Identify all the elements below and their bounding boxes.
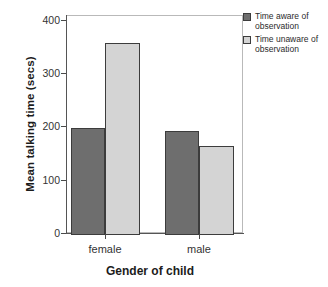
x-category-label-male: male [159, 243, 239, 255]
legend-item-aware: Time aware of observation [243, 11, 328, 31]
y-tick-label-100: 100 [26, 175, 60, 186]
y-tick-label-400: 400 [26, 15, 60, 26]
legend-item-unaware: Time unaware of observation [243, 34, 328, 54]
x-tick-mark-female [105, 234, 106, 239]
bar-male-unaware [199, 146, 234, 235]
chart-legend: Time aware of observation Time unaware o… [243, 11, 328, 57]
legend-label-aware: Time aware of observation [255, 11, 328, 31]
x-axis-title: Gender of child [0, 264, 300, 278]
bar-female-aware [71, 128, 105, 235]
x-tick-mark-male [199, 234, 200, 239]
light-swatch-icon [243, 36, 251, 44]
bar-female-unaware [105, 43, 140, 235]
bar-chart-figure: Mean talking time (secs) 400 300 200 100… [0, 0, 328, 287]
y-axis-line [66, 15, 67, 234]
x-category-label-female: female [65, 243, 145, 255]
y-axis-tick-labels: 400 300 200 100 0 [22, 0, 60, 287]
dark-swatch-icon [243, 13, 251, 21]
y-tick-label-0: 0 [26, 228, 60, 239]
y-tick-label-200: 200 [26, 121, 60, 132]
legend-label-unaware: Time unaware of observation [255, 34, 328, 54]
y-tick-label-300: 300 [26, 68, 60, 79]
bar-male-aware [165, 131, 199, 235]
